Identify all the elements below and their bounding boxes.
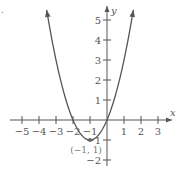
vertex-label: (−1, 1) [70, 145, 102, 155]
x-tick-label: −4 [32, 126, 47, 137]
x-axis-label: x [170, 107, 176, 118]
y-tick-label: 2 [95, 75, 101, 86]
y-tick-label: −2 [86, 155, 101, 166]
x-tick-label: −5 [15, 126, 30, 137]
curve-arrow-icon [129, 10, 135, 17]
y-tick-label: 1 [95, 95, 101, 106]
y-axis-label: y [110, 5, 117, 16]
y-axis-arrow-icon [105, 6, 110, 12]
curve-arrow-icon [45, 10, 51, 17]
x-tick-label: 1 [121, 126, 127, 137]
y-tick-label: 4 [95, 35, 101, 46]
x-tick-label: −3 [49, 126, 64, 137]
x-axis-arrow-icon [166, 118, 172, 123]
corner-mark: . [1, 5, 4, 15]
y-tick-label: 3 [95, 55, 101, 66]
ticks: −5−4−3−2−1123−2−112345 [15, 15, 162, 166]
y-tick-label: 5 [95, 15, 101, 26]
x-tick-label: 3 [155, 126, 161, 137]
vertex-point [88, 138, 92, 142]
parabola-graph: . −5−4−3−2−1123−2−112345 (−1, 1) x y [0, 0, 177, 169]
x-tick-label: 2 [138, 126, 144, 137]
